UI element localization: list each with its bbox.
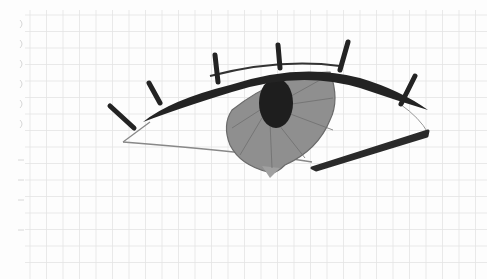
lash-4 [278, 45, 280, 68]
pupil [259, 78, 293, 128]
lash-3 [215, 55, 218, 82]
eye-drawing [0, 0, 487, 279]
